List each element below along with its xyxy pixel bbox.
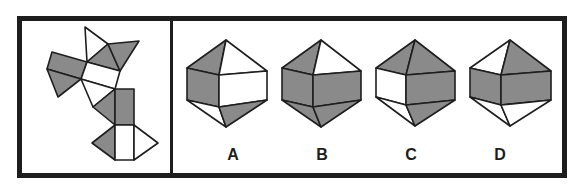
- option-b-figure[interactable]: [282, 40, 361, 127]
- option-d-label[interactable]: D: [485, 146, 515, 164]
- option-d-figure[interactable]: [470, 40, 551, 126]
- option-c-figure[interactable]: [376, 40, 455, 126]
- unfolded-net: [47, 27, 158, 160]
- option-b-label[interactable]: B: [307, 146, 337, 164]
- option-c-label[interactable]: C: [396, 146, 426, 164]
- option-a-label[interactable]: A: [218, 146, 248, 164]
- option-a-figure[interactable]: [187, 40, 267, 127]
